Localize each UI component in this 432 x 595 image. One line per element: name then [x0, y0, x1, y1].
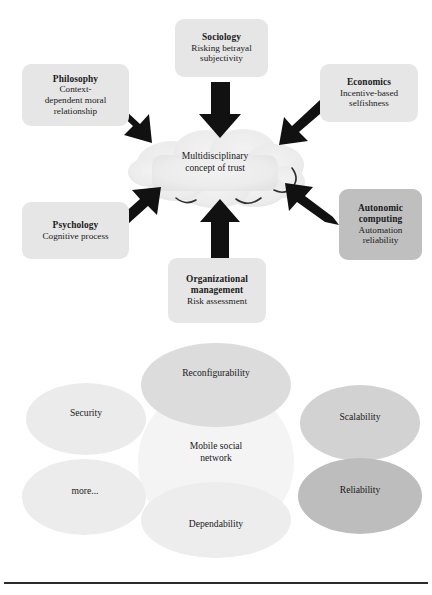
- cloud-center-line1: Multidisciplinary: [150, 150, 280, 162]
- node-autonomic-computing[interactable]: Autonomic computing Automation reliabili…: [339, 189, 422, 260]
- node-organizational-desc1: Risk assessment: [187, 296, 247, 307]
- node-economics[interactable]: Economics Incentive-based selfishness: [320, 64, 418, 122]
- node-economics-desc2: selfishness: [349, 98, 389, 109]
- node-sociology[interactable]: Sociology Risking betrayal subjectivity: [175, 19, 268, 77]
- ellipse-reconfigurability[interactable]: [141, 343, 291, 427]
- node-philosophy-desc1: Context-: [59, 84, 91, 95]
- label-reconfigurability: Reconfigurability: [148, 367, 284, 379]
- label-scalability: Scalability: [318, 411, 402, 423]
- label-center-line2: network: [165, 452, 267, 464]
- node-philosophy[interactable]: Philosophy Context- dependent moral rela…: [22, 64, 129, 126]
- label-reliability: Reliability: [318, 484, 402, 496]
- node-autonomic-title2: computing: [359, 214, 403, 225]
- cloud-center-label: Multidisciplinary concept of trust: [150, 150, 280, 175]
- node-organizational-title1: Organizational: [186, 274, 248, 285]
- label-center-line1: Mobile social: [165, 440, 267, 452]
- node-economics-desc1: Incentive-based: [340, 88, 398, 99]
- label-security: Security: [46, 407, 126, 419]
- node-sociology-title: Sociology: [202, 32, 241, 43]
- bottom-divider-rule: [4, 582, 428, 584]
- cloud-center-line2: concept of trust: [150, 162, 280, 174]
- node-psychology-title: Psychology: [53, 220, 99, 231]
- label-dependability: Dependability: [157, 518, 275, 530]
- node-autonomic-desc1: Automation: [359, 225, 403, 236]
- node-sociology-desc2: subjectivity: [200, 53, 243, 64]
- node-organizational-title2: management: [191, 285, 244, 296]
- label-more: more...: [45, 485, 125, 497]
- node-philosophy-desc3: relationship: [54, 106, 97, 117]
- label-mobile-social-network: Mobile social network: [165, 440, 267, 465]
- node-philosophy-title: Philosophy: [53, 74, 98, 85]
- node-economics-title: Economics: [347, 77, 391, 88]
- node-philosophy-desc2: dependent moral: [45, 95, 106, 106]
- node-psychology-desc1: Cognitive process: [42, 231, 108, 242]
- node-psychology[interactable]: Psychology Cognitive process: [22, 202, 129, 259]
- node-autonomic-desc2: reliability: [363, 235, 399, 246]
- node-sociology-desc1: Risking betrayal: [191, 43, 251, 54]
- node-autonomic-title1: Autonomic: [358, 203, 403, 214]
- figure-container: Multidisciplinary concept of trust Philo…: [0, 0, 432, 595]
- node-organizational-management[interactable]: Organizational management Risk assessmen…: [168, 258, 266, 323]
